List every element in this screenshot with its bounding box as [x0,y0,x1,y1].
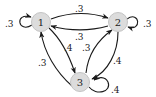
edge-1-to-3: .4 [49,28,75,73]
edge-1-to-2: .3 [51,4,108,19]
node-2: 2 [109,13,128,32]
node-3-label: 3 [77,77,83,88]
edge-label-2-2: .3 [143,19,152,29]
edge-label-2-1: .3 [75,32,84,42]
node-1: 1 [32,13,51,32]
edge-label-2-3: .4 [113,56,122,66]
node-3: 3 [71,73,90,92]
edge-3-to-3: .4 [89,78,120,95]
node-1-label: 1 [38,17,44,28]
node-2-label: 2 [115,17,121,28]
edge-label-1-3: .4 [64,43,73,53]
markov-chain-diagram: .3 .3 .3 .3 .4 .3 .3 [0,0,156,97]
edge-label-1-1: .3 [5,19,14,29]
edge-label-1-2: .3 [75,4,84,14]
edge-2-to-3: .4 [92,32,122,79]
edge-label-3-1: .3 [38,58,47,68]
edge-1-to-1: .3 [5,16,32,29]
edge-label-3-2: .3 [82,43,91,53]
edge-3-to-1: .3 [38,32,72,86]
edge-2-to-2: .3 [127,17,152,29]
edge-label-3-3: .4 [111,85,120,95]
